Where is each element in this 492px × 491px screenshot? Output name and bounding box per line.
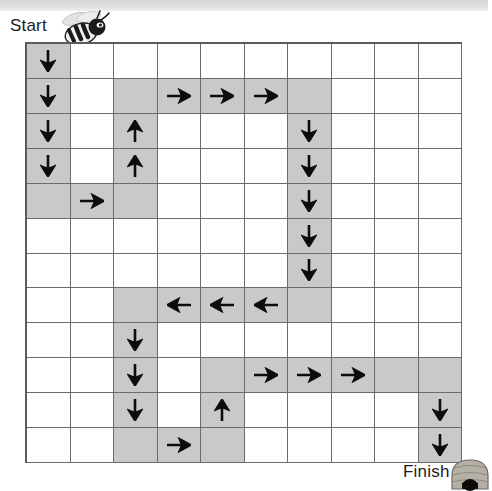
maze-cell-r9-c6[interactable] xyxy=(288,358,332,393)
maze-cell-r1-c4[interactable] xyxy=(201,79,245,114)
maze-cell-r5-c1[interactable] xyxy=(71,219,115,254)
maze-cell-r7-c3[interactable] xyxy=(158,288,202,323)
maze-cell-r1-c6[interactable] xyxy=(288,79,332,114)
maze-cell-r9-c9[interactable] xyxy=(419,358,463,393)
maze-cell-r1-c3[interactable] xyxy=(158,79,202,114)
maze-cell-r0-c7[interactable] xyxy=(332,44,376,79)
maze-cell-r3-c8[interactable] xyxy=(375,149,419,184)
maze-cell-r7-c6[interactable] xyxy=(288,288,332,323)
maze-cell-r5-c2[interactable] xyxy=(114,219,158,254)
maze-cell-r1-c1[interactable] xyxy=(71,79,115,114)
maze-cell-r0-c6[interactable] xyxy=(288,44,332,79)
maze-cell-r7-c7[interactable] xyxy=(332,288,376,323)
maze-cell-r5-c7[interactable] xyxy=(332,219,376,254)
maze-cell-r11-c8[interactable] xyxy=(375,428,419,463)
maze-cell-r4-c4[interactable] xyxy=(201,184,245,219)
maze-cell-r0-c5[interactable] xyxy=(245,44,289,79)
maze-cell-r3-c5[interactable] xyxy=(245,149,289,184)
maze-cell-r4-c3[interactable] xyxy=(158,184,202,219)
maze-cell-r10-c4[interactable] xyxy=(201,393,245,428)
maze-cell-r6-c6[interactable] xyxy=(288,254,332,289)
maze-cell-r8-c8[interactable] xyxy=(375,323,419,358)
maze-cell-r8-c2[interactable] xyxy=(114,323,158,358)
maze-cell-r5-c3[interactable] xyxy=(158,219,202,254)
maze-cell-r8-c9[interactable] xyxy=(419,323,463,358)
maze-cell-r9-c7[interactable] xyxy=(332,358,376,393)
maze-cell-r9-c5[interactable] xyxy=(245,358,289,393)
maze-cell-r3-c6[interactable] xyxy=(288,149,332,184)
maze-cell-r4-c1[interactable] xyxy=(71,184,115,219)
maze-cell-r9-c0[interactable] xyxy=(27,358,71,393)
maze-cell-r6-c5[interactable] xyxy=(245,254,289,289)
maze-cell-r2-c5[interactable] xyxy=(245,114,289,149)
maze-cell-r10-c2[interactable] xyxy=(114,393,158,428)
maze-cell-r2-c7[interactable] xyxy=(332,114,376,149)
maze-cell-r8-c0[interactable] xyxy=(27,323,71,358)
maze-cell-r9-c1[interactable] xyxy=(71,358,115,393)
maze-cell-r11-c2[interactable] xyxy=(114,428,158,463)
maze-cell-r5-c6[interactable] xyxy=(288,219,332,254)
maze-cell-r1-c9[interactable] xyxy=(419,79,463,114)
maze-cell-r1-c8[interactable] xyxy=(375,79,419,114)
maze-cell-r0-c4[interactable] xyxy=(201,44,245,79)
maze-cell-r1-c5[interactable] xyxy=(245,79,289,114)
maze-cell-r2-c6[interactable] xyxy=(288,114,332,149)
maze-cell-r6-c4[interactable] xyxy=(201,254,245,289)
maze-cell-r9-c3[interactable] xyxy=(158,358,202,393)
maze-cell-r4-c2[interactable] xyxy=(114,184,158,219)
maze-cell-r11-c7[interactable] xyxy=(332,428,376,463)
maze-cell-r11-c3[interactable] xyxy=(158,428,202,463)
maze-cell-r3-c9[interactable] xyxy=(419,149,463,184)
maze-cell-r5-c4[interactable] xyxy=(201,219,245,254)
maze-cell-r0-c8[interactable] xyxy=(375,44,419,79)
maze-cell-r5-c8[interactable] xyxy=(375,219,419,254)
maze-cell-r3-c2[interactable] xyxy=(114,149,158,184)
maze-cell-r0-c9[interactable] xyxy=(419,44,463,79)
maze-cell-r7-c1[interactable] xyxy=(71,288,115,323)
maze-cell-r0-c2[interactable] xyxy=(114,44,158,79)
maze-cell-r2-c4[interactable] xyxy=(201,114,245,149)
maze-cell-r11-c5[interactable] xyxy=(245,428,289,463)
maze-cell-r1-c2[interactable] xyxy=(114,79,158,114)
maze-cell-r8-c1[interactable] xyxy=(71,323,115,358)
maze-cell-r6-c2[interactable] xyxy=(114,254,158,289)
maze-cell-r6-c3[interactable] xyxy=(158,254,202,289)
maze-cell-r3-c1[interactable] xyxy=(71,149,115,184)
maze-cell-r11-c6[interactable] xyxy=(288,428,332,463)
maze-cell-r10-c9[interactable] xyxy=(419,393,463,428)
maze-cell-r8-c7[interactable] xyxy=(332,323,376,358)
maze-cell-r3-c0[interactable] xyxy=(27,149,71,184)
maze-cell-r7-c5[interactable] xyxy=(245,288,289,323)
maze-cell-r2-c3[interactable] xyxy=(158,114,202,149)
maze-cell-r4-c0[interactable] xyxy=(27,184,71,219)
maze-cell-r4-c5[interactable] xyxy=(245,184,289,219)
maze-cell-r11-c0[interactable] xyxy=(27,428,71,463)
maze-cell-r11-c1[interactable] xyxy=(71,428,115,463)
maze-cell-r1-c7[interactable] xyxy=(332,79,376,114)
maze-cell-r3-c4[interactable] xyxy=(201,149,245,184)
maze-cell-r5-c0[interactable] xyxy=(27,219,71,254)
maze-cell-r3-c3[interactable] xyxy=(158,149,202,184)
maze-cell-r8-c3[interactable] xyxy=(158,323,202,358)
maze-cell-r3-c7[interactable] xyxy=(332,149,376,184)
maze-cell-r10-c6[interactable] xyxy=(288,393,332,428)
maze-cell-r8-c5[interactable] xyxy=(245,323,289,358)
maze-cell-r10-c3[interactable] xyxy=(158,393,202,428)
maze-cell-r2-c9[interactable] xyxy=(419,114,463,149)
maze-cell-r5-c5[interactable] xyxy=(245,219,289,254)
maze-cell-r1-c0[interactable] xyxy=(27,79,71,114)
maze-cell-r9-c4[interactable] xyxy=(201,358,245,393)
maze-cell-r6-c8[interactable] xyxy=(375,254,419,289)
maze-cell-r7-c4[interactable] xyxy=(201,288,245,323)
maze-cell-r6-c0[interactable] xyxy=(27,254,71,289)
maze-cell-r11-c4[interactable] xyxy=(201,428,245,463)
maze-cell-r6-c1[interactable] xyxy=(71,254,115,289)
maze-cell-r9-c2[interactable] xyxy=(114,358,158,393)
maze-cell-r4-c9[interactable] xyxy=(419,184,463,219)
maze-cell-r10-c7[interactable] xyxy=(332,393,376,428)
maze-grid[interactable] xyxy=(25,42,462,463)
maze-cell-r2-c1[interactable] xyxy=(71,114,115,149)
maze-cell-r0-c1[interactable] xyxy=(71,44,115,79)
maze-cell-r7-c9[interactable] xyxy=(419,288,463,323)
maze-cell-r4-c6[interactable] xyxy=(288,184,332,219)
